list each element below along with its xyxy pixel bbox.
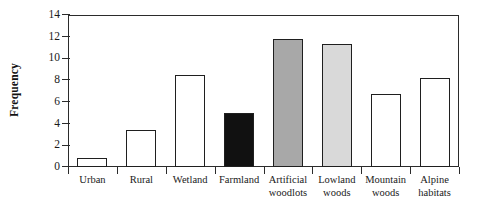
bars-layer: [68, 15, 459, 167]
x-axis-tick: [117, 167, 118, 174]
x-axis-tick: [68, 167, 69, 174]
y-axis-tick-label: 2: [32, 139, 60, 150]
bar: [420, 78, 450, 167]
x-axis-label: Alpinehabitats: [406, 174, 463, 199]
y-axis-tick-label: 0: [32, 161, 60, 172]
x-axis-label-line: Alpine: [406, 174, 463, 187]
x-axis-tick: [312, 167, 313, 174]
x-axis-tick: [410, 167, 411, 174]
x-axis-tick: [264, 167, 265, 174]
y-axis-tick-label: 12: [32, 31, 60, 42]
y-axis-tick-label: 8: [32, 74, 60, 85]
y-axis-title: Frequency: [2, 0, 26, 180]
x-axis-tick: [166, 167, 167, 174]
bar: [273, 39, 303, 167]
bar: [371, 94, 401, 167]
x-axis-tick: [361, 167, 362, 174]
bar: [224, 113, 254, 167]
bar: [322, 44, 352, 167]
bar: [77, 158, 107, 167]
y-axis-tick-label: 6: [32, 96, 60, 107]
x-axis-tick: [215, 167, 216, 174]
bar: [175, 75, 205, 167]
x-axis-tick: [459, 167, 460, 174]
x-axis-label-line: habitats: [406, 187, 463, 200]
y-axis-tick-label: 10: [32, 52, 60, 63]
bar-chart-figure: Frequency 02468101214 UrbanRuralWetlandF…: [0, 0, 490, 209]
y-axis-tick-label: 4: [32, 118, 60, 129]
y-axis-tick-label: 14: [32, 9, 60, 20]
bar: [126, 130, 156, 167]
y-axis-title-text: Frequency: [8, 63, 20, 117]
